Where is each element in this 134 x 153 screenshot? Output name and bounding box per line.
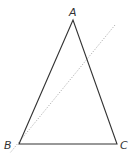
triangle-diagram: A B C	[0, 0, 134, 153]
vertex-label-b: B	[4, 139, 12, 152]
vertex-label-c: C	[120, 139, 128, 152]
vertex-label-a: A	[68, 6, 77, 19]
